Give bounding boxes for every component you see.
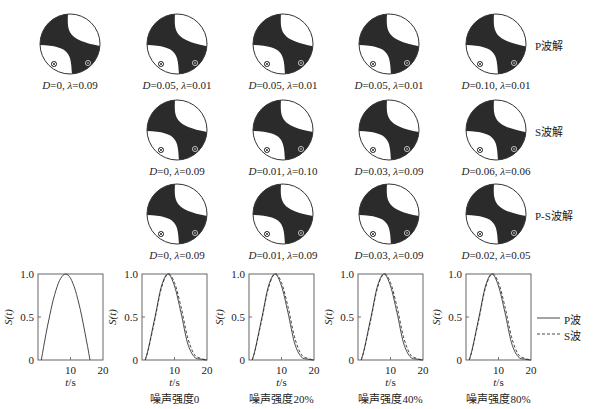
svg-text:1.0: 1.0 — [124, 268, 138, 280]
svg-text:0: 0 — [133, 354, 139, 366]
source-time-function-plot: 1.00.501020t/sS(t) — [213, 268, 320, 388]
svg-text:t/s: t/s — [65, 376, 75, 388]
legend-label: P波 — [564, 311, 581, 327]
svg-text:10: 10 — [276, 364, 288, 376]
focal-mechanism-beachball — [147, 14, 207, 74]
focal-mechanism-beachball — [147, 184, 207, 244]
focal-mechanism-beachball — [40, 14, 100, 74]
plot-caption: 噪声强度80% — [466, 390, 530, 406]
beachball-label: D=0.05, λ=0.01 — [248, 79, 317, 91]
focal-mechanism-beachball — [359, 100, 419, 160]
svg-text:0.5: 0.5 — [448, 311, 462, 323]
p-wave-curve — [41, 274, 90, 360]
plot-caption: 噪声强度0 — [150, 390, 200, 406]
source-time-function-plot: 1.00.501020t/sS(t) — [322, 268, 429, 388]
svg-text:S(t): S(t) — [322, 309, 335, 325]
focal-mechanism-beachball — [359, 184, 419, 244]
svg-text:0.5: 0.5 — [231, 311, 245, 323]
svg-text:0.5: 0.5 — [124, 311, 138, 323]
beachball-label: D=0.01, λ=0.10 — [248, 165, 317, 177]
svg-text:t/s: t/s — [385, 376, 395, 388]
focal-mechanism-beachball — [466, 14, 526, 74]
beachball-label: D=0.05, λ=0.01 — [142, 79, 211, 91]
svg-text:1.0: 1.0 — [448, 268, 462, 280]
row-label: P-S波解 — [535, 207, 573, 223]
beachball-label: D=0, λ=0.09 — [42, 79, 97, 91]
plot-caption: 噪声强度40% — [358, 390, 422, 406]
focal-mechanism-beachball — [466, 100, 526, 160]
svg-text:20: 20 — [526, 364, 538, 376]
row-label: P波解 — [535, 37, 563, 53]
beachball-label: D=0.10, λ=0.01 — [461, 79, 530, 91]
svg-text:1.0: 1.0 — [340, 268, 354, 280]
source-time-function-plot: 1.00.501020t/sS(t) — [106, 268, 213, 388]
svg-text:0: 0 — [457, 354, 463, 366]
focal-mechanism-beachball — [253, 184, 313, 244]
svg-text:S(t): S(t) — [213, 309, 226, 325]
svg-text:20: 20 — [98, 364, 110, 376]
row-label: S波解 — [535, 123, 563, 139]
svg-text:0: 0 — [29, 354, 35, 366]
svg-text:t/s: t/s — [493, 376, 503, 388]
plot-caption: 噪声强度20% — [249, 390, 313, 406]
svg-text:S(t): S(t) — [2, 309, 15, 325]
beachball-label: D=0.06, λ=0.06 — [461, 165, 530, 177]
svg-text:10: 10 — [65, 364, 77, 376]
svg-text:10: 10 — [385, 364, 397, 376]
beachball-label: D=0.01, λ=0.09 — [248, 249, 317, 261]
svg-text:0: 0 — [349, 354, 355, 366]
source-time-function-plot: 1.00.501020t/sS(t) — [2, 268, 109, 388]
focal-mechanism-beachball — [253, 100, 313, 160]
focal-mechanism-beachball — [359, 14, 419, 74]
beachball-label: D=0, λ=0.09 — [149, 249, 204, 261]
svg-text:10: 10 — [493, 364, 505, 376]
s-wave-curve — [361, 274, 423, 360]
s-wave-curve — [469, 274, 531, 360]
svg-text:S(t): S(t) — [106, 309, 119, 325]
focal-mechanism-beachball — [147, 100, 207, 160]
beachball-label: D=0.02, λ=0.05 — [461, 249, 530, 261]
beachball-label: D=0.03, λ=0.09 — [354, 165, 423, 177]
source-time-function-plot: 1.00.501020t/sS(t) — [430, 268, 537, 388]
legend-label: S波 — [564, 327, 581, 343]
svg-text:S(t): S(t) — [430, 309, 443, 325]
svg-text:1.0: 1.0 — [231, 268, 245, 280]
svg-text:0.5: 0.5 — [340, 311, 354, 323]
focal-mechanism-beachball — [466, 184, 526, 244]
beachball-label: D=0.05, λ=0.01 — [354, 79, 423, 91]
svg-text:0.5: 0.5 — [20, 311, 34, 323]
svg-text:10: 10 — [169, 364, 181, 376]
svg-text:20: 20 — [309, 364, 321, 376]
svg-text:20: 20 — [418, 364, 430, 376]
focal-mechanism-beachball — [253, 14, 313, 74]
beachball-label: D=0, λ=0.09 — [149, 165, 204, 177]
svg-text:t/s: t/s — [169, 376, 179, 388]
s-wave-curve — [145, 274, 207, 360]
svg-text:0: 0 — [240, 354, 246, 366]
beachball-label: D=0.03, λ=0.09 — [354, 249, 423, 261]
svg-text:20: 20 — [202, 364, 214, 376]
svg-text:t/s: t/s — [276, 376, 286, 388]
figure: 1.00.501020t/sS(t)1.00.501020t/sS(t)1.00… — [0, 0, 594, 409]
svg-text:1.0: 1.0 — [20, 268, 34, 280]
s-wave-curve — [252, 274, 314, 360]
